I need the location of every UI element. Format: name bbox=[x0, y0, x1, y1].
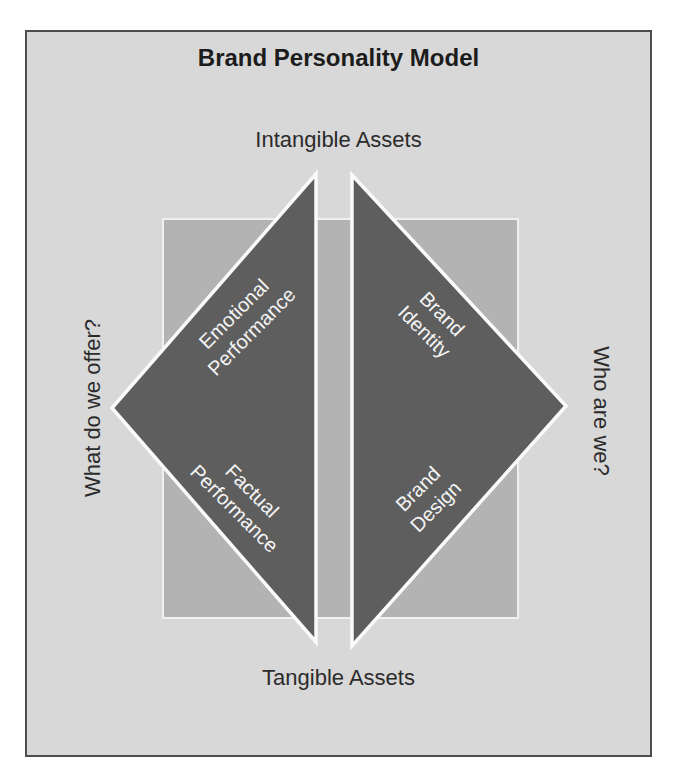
axis-label-what-do-we-offer: What do we offer? bbox=[79, 208, 107, 608]
axis-label-who-are-we: Who are we? bbox=[587, 211, 615, 611]
diagram-frame: Brand Personality Model Intangible Asset… bbox=[25, 30, 652, 757]
diamond-diagram bbox=[27, 32, 650, 755]
axis-label-tangible-assets: Tangible Assets bbox=[27, 664, 650, 692]
